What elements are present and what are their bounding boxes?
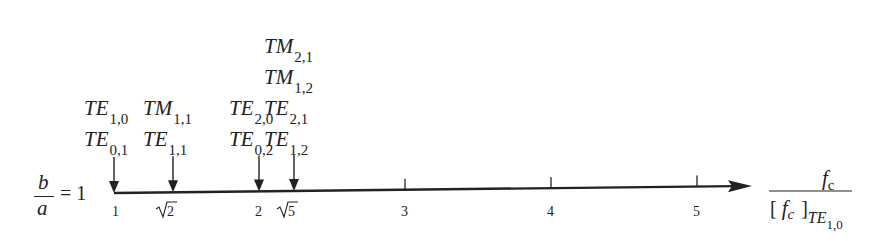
- mode-label: TE1,1: [143, 127, 187, 158]
- tick-label: 1: [112, 204, 119, 219]
- tick-label: 3: [401, 204, 408, 219]
- svg-text:3: 3: [401, 204, 408, 219]
- tick-label: 5: [277, 202, 298, 219]
- ratio-equals: = 1: [60, 182, 86, 205]
- tick-label: 2: [255, 204, 262, 219]
- mode-marker: TM1,1TE1,1: [143, 96, 192, 192]
- mode-label: TM1,1: [143, 96, 192, 127]
- ratio-denominator: a: [37, 196, 48, 221]
- down-arrow-icon: [168, 180, 178, 192]
- svg-text:fc: fc: [822, 166, 835, 193]
- mode-label: TE0,1: [84, 127, 128, 158]
- tick-label: 5: [693, 204, 700, 219]
- mode-label: TM1,2: [264, 65, 313, 96]
- ratio-numerator: b: [38, 170, 49, 195]
- svg-text:1: 1: [112, 204, 119, 219]
- mode-label: TM2,1: [264, 34, 313, 65]
- ratio-label: b a = 1: [32, 172, 112, 222]
- svg-text:5: 5: [693, 204, 700, 219]
- svg-text:2: 2: [255, 204, 262, 219]
- svg-text:2: 2: [167, 204, 174, 219]
- axis-label: fc[ fc ]TE1,0: [769, 166, 852, 232]
- svg-text:5: 5: [288, 204, 295, 219]
- down-arrow-icon: [254, 179, 264, 191]
- mode-label: TE1,0: [84, 96, 128, 127]
- mode-marker: TM2,1TM1,2TE2,1TE1,2: [264, 34, 313, 191]
- down-arrow-icon: [289, 179, 299, 191]
- cutoff-frequency-diagram: 1225345TE1,0TE0,1TM1,1TE1,1TE2,0TE0,2TM2…: [0, 0, 884, 241]
- tick-label: 2: [156, 202, 177, 219]
- tick-label: 4: [547, 204, 554, 219]
- frequency-axis: [114, 186, 735, 193]
- svg-text:[ fc ]TE1,0: [ fc ]TE1,0: [770, 196, 843, 232]
- svg-text:4: 4: [547, 204, 554, 219]
